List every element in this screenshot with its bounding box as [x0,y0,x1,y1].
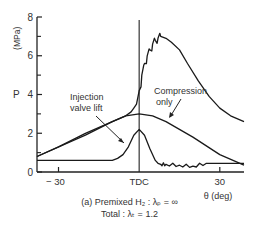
y-axis-symbol: P [13,89,20,100]
x-tick-label: 30 [215,176,226,187]
y-tick-label: 4 [27,89,33,100]
series-layer [37,33,244,167]
y-axis-unit: (MPa) [12,27,22,50]
y-tick-label: 6 [27,50,33,61]
annotation-injection-label-2: valve lift [70,103,103,113]
y-tick-label: 8 [27,12,33,23]
annotation-compression-label-2: only [156,97,173,107]
annotation-compression-label-1: Compression [154,86,207,96]
caption-line-2: Total : λₜ = 1.2 [0,209,259,219]
axes: 02468− 30TDC30P(MPa)θ (deg) [12,12,244,202]
x-tick-label: TDC [129,176,149,187]
series-injection-valve-lift [37,129,244,167]
y-tick-label: 2 [27,128,33,139]
arrow-head-icon [169,112,174,118]
annotation-injection-label-1: Injection [70,92,104,102]
y-tick-label: 0 [27,167,33,178]
pressure-chart: 02468− 30TDC30P(MPa)θ (deg) Injectionval… [0,0,259,228]
caption-line-1: (a) Premixed H₂ : λₚ = ∞ [0,197,259,207]
series-compression-only [37,114,244,165]
x-tick-label: − 30 [46,176,65,187]
series-combustion-pressure [37,33,244,156]
annotation-injection-arrow [96,116,124,143]
